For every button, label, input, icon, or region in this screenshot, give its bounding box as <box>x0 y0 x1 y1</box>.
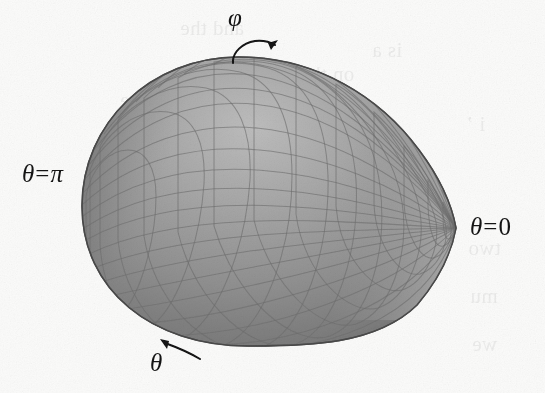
teardrop-surface-figure <box>0 0 545 393</box>
theta-arrowhead <box>160 339 169 349</box>
zero-value: 0 <box>498 213 511 240</box>
theta-symbol: θ <box>22 160 34 187</box>
label-theta-equals-zero: θ=0 <box>470 213 511 241</box>
label-phi: φ <box>228 4 242 32</box>
phi-symbol: φ <box>228 4 242 31</box>
theta-symbol: θ <box>470 213 482 240</box>
label-theta-rotation: θ <box>150 349 162 377</box>
pi-symbol: π <box>50 160 63 187</box>
equals-sign: = <box>34 160 50 187</box>
label-theta-equals-pi: θ=π <box>22 160 63 188</box>
equals-sign: = <box>482 213 498 240</box>
theta-symbol: θ <box>150 349 162 376</box>
theta-arrow <box>165 343 200 359</box>
